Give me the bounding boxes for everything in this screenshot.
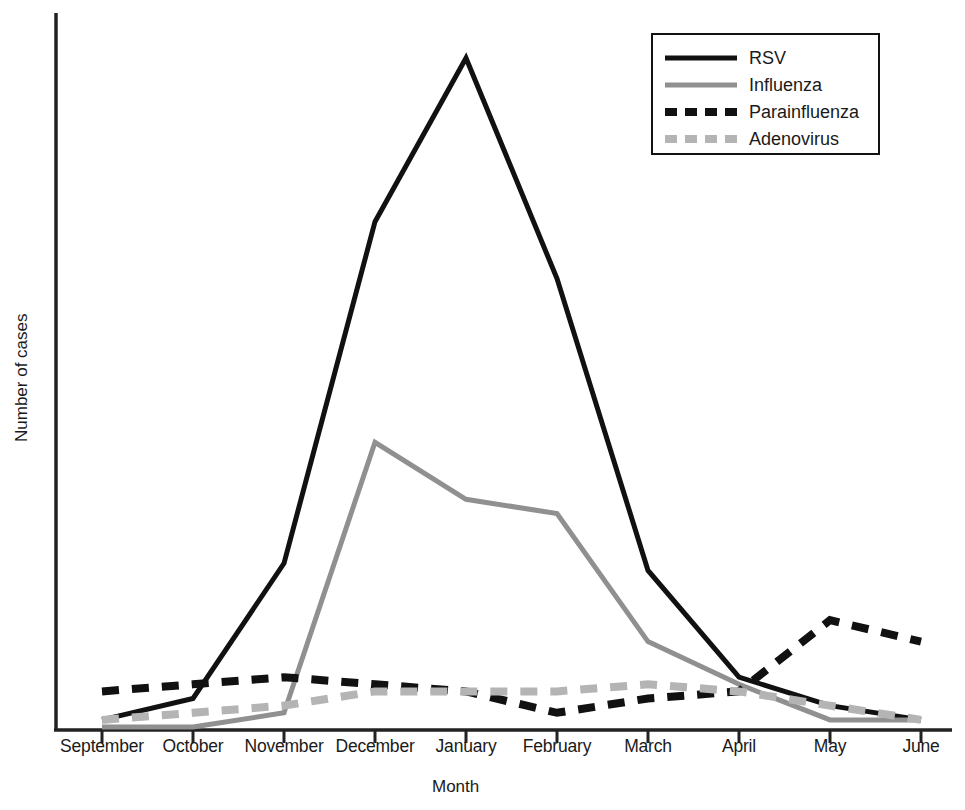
legend-label: Adenovirus: [749, 130, 839, 148]
series-layer: [102, 58, 921, 727]
series-line-adenovirus: [102, 684, 921, 720]
x-axis-title: Month: [432, 777, 479, 797]
legend-entry-adenovirus[interactable]: Adenovirus: [653, 124, 878, 154]
dashed-gray-line-icon: [665, 133, 737, 145]
x-tick-label-april: April: [722, 736, 756, 757]
x-tick-label-january: January: [436, 736, 497, 757]
y-axis-title: Number of cases: [12, 322, 32, 442]
series-line-rsv: [102, 58, 921, 720]
x-axis-ticks: [102, 730, 921, 743]
legend-entry-parainfluenza[interactable]: Parainfluenza: [653, 97, 878, 127]
chart-figure: Number of cases Month SeptemberOctoberNo…: [0, 0, 965, 810]
x-tick-label-june: June: [902, 736, 939, 757]
dashed-black-line-icon: [665, 106, 737, 118]
x-tick-label-november: November: [244, 736, 323, 757]
x-tick-label-september: September: [60, 736, 144, 757]
legend-label: Influenza: [749, 76, 822, 94]
chart-legend: RSVInfluenzaParainfluenzaAdenovirus: [651, 33, 880, 155]
legend-entry-influenza[interactable]: Influenza: [653, 70, 878, 100]
legend-entry-rsv[interactable]: RSV: [653, 43, 878, 73]
x-tick-label-october: October: [163, 736, 224, 757]
solid-gray-line-icon: [665, 79, 737, 91]
x-tick-label-march: March: [624, 736, 672, 757]
x-tick-label-december: December: [335, 736, 414, 757]
solid-black-line-icon: [665, 52, 737, 64]
legend-label: Parainfluenza: [749, 103, 859, 121]
x-tick-label-may: May: [814, 736, 846, 757]
x-tick-label-february: February: [523, 736, 591, 757]
legend-label: RSV: [749, 49, 786, 67]
